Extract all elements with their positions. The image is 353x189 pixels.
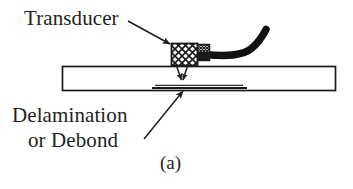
transducer-cable <box>205 30 266 56</box>
transducer-leader-arrow <box>128 21 170 44</box>
transducer-backing <box>197 45 210 61</box>
crosshatched-transducer <box>172 44 198 66</box>
label-transducer: Transducer <box>24 6 119 31</box>
figure-subcaption: (a) <box>160 152 181 174</box>
figure-container: Transducer Delamination or Debond (a) <box>0 0 353 189</box>
label-delamination-line2: or Debond <box>12 128 128 153</box>
label-delamination-or-debond: Delamination or Debond <box>12 103 128 153</box>
label-delamination-line1: Delamination <box>12 103 128 127</box>
specimen-plate <box>63 67 336 91</box>
delamination-leader-arrow <box>144 91 183 139</box>
